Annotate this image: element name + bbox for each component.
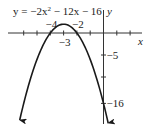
x-tick-label: −2 [72, 18, 84, 30]
equation-title: y = −2x2 − 12x − 16 [13, 5, 102, 17]
tick-labels: −4−3−2−5−16 [45, 18, 124, 109]
parabola-graph: y = −2x2 − 12x − 16 x y −4−3−2−5−16 [0, 0, 148, 128]
y-tick-label: −16 [107, 97, 125, 109]
y-axis-label: y [106, 5, 112, 17]
x-tick-label: −3 [59, 36, 71, 48]
x-axis-label: x [137, 35, 143, 47]
y-tick-label: −5 [107, 49, 119, 61]
